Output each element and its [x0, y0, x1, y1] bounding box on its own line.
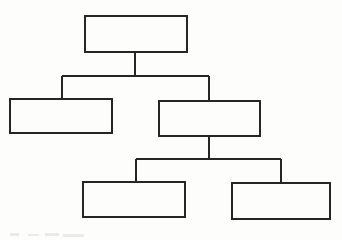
node-box-level3-right	[232, 183, 330, 219]
cropped-caption-artifact	[28, 234, 39, 236]
node-box-level3-left	[83, 182, 185, 217]
tree-diagram	[0, 0, 342, 240]
cropped-caption-artifact	[10, 233, 19, 236]
cropped-caption-artifact	[63, 234, 84, 237]
scanned-page	[0, 0, 342, 240]
node-box-level2-left	[10, 99, 112, 133]
cropped-caption-artifact	[45, 233, 59, 236]
node-box-root	[85, 16, 187, 52]
node-box-level2-right	[159, 101, 260, 136]
